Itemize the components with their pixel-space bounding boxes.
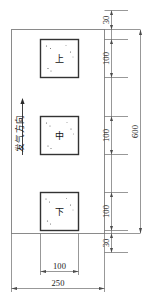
dim-upper-cell: 100 [101, 52, 111, 65]
dim-cell-width: 100 [53, 261, 66, 271]
dim-lower-cell: 100 [101, 205, 111, 218]
dim-overall-width: 250 [51, 278, 64, 288]
dim-overall-height: 600 [130, 125, 140, 138]
cell-middle-label: 中 [55, 130, 64, 141]
dim-middle-cell: 100 [101, 129, 111, 142]
dim-bottom-margin: 30 [101, 239, 111, 248]
cell-upper-label: 上 [55, 54, 64, 64]
technical-drawing-canvas: 上 中 下 [0, 0, 165, 307]
flow-direction-label: 发气方向 [14, 114, 25, 152]
dim-top-margin: 30 [101, 16, 111, 25]
cell-lower-label: 下 [55, 207, 64, 217]
